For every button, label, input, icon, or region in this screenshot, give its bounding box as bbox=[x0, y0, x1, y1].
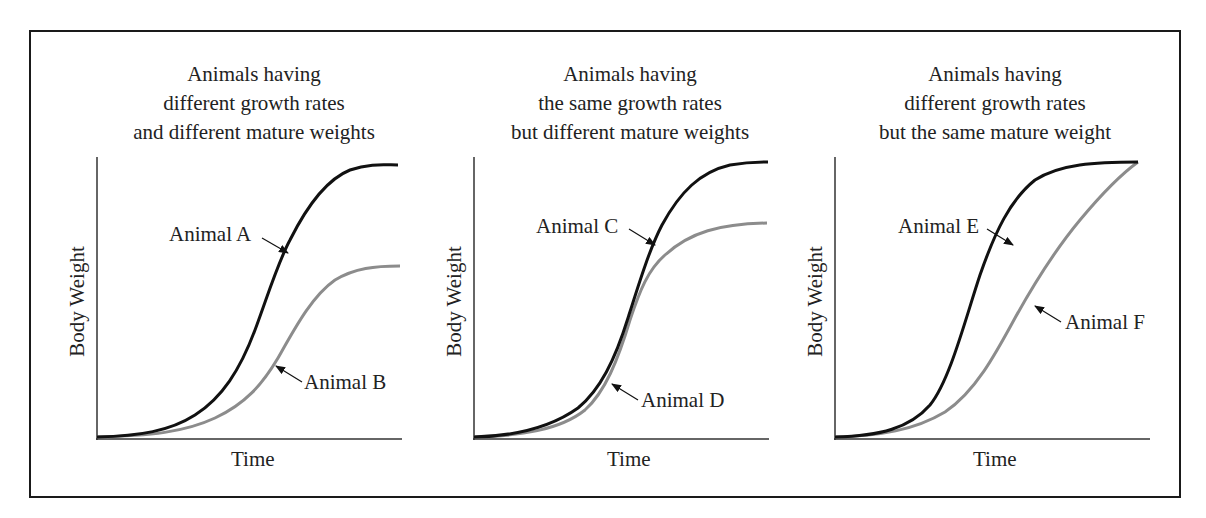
panel-1-label-animal-a: Animal A bbox=[169, 222, 252, 246]
panel-1-curve-animal-b bbox=[97, 266, 400, 437]
panel-3-arrow-animal-f bbox=[1035, 306, 1061, 322]
panel-1-arrow-animal-a bbox=[262, 238, 288, 253]
panel-1-label-animal-b: Animal B bbox=[304, 370, 386, 394]
panel-2-label-animal-c: Animal C bbox=[536, 214, 618, 238]
panel-3-curve-animal-f bbox=[835, 162, 1138, 437]
panel-1-chart: Animal A Animal B bbox=[96, 157, 402, 440]
panel-2-label-animal-d: Animal D bbox=[641, 388, 724, 412]
panel-3-label-animal-e: Animal E bbox=[898, 214, 979, 238]
panel-3-chart: Animal E Animal F bbox=[834, 157, 1150, 440]
plots-canvas: Animal A Animal B Animal C Animal D Anim… bbox=[0, 0, 1206, 518]
panel-2-arrow-animal-c bbox=[629, 229, 655, 245]
panel-2-arrow-animal-d bbox=[612, 384, 638, 400]
panel-3-label-animal-f: Animal F bbox=[1065, 310, 1145, 334]
panel-2-chart: Animal C Animal D bbox=[473, 157, 769, 440]
panel-1-arrow-animal-b bbox=[276, 366, 302, 382]
